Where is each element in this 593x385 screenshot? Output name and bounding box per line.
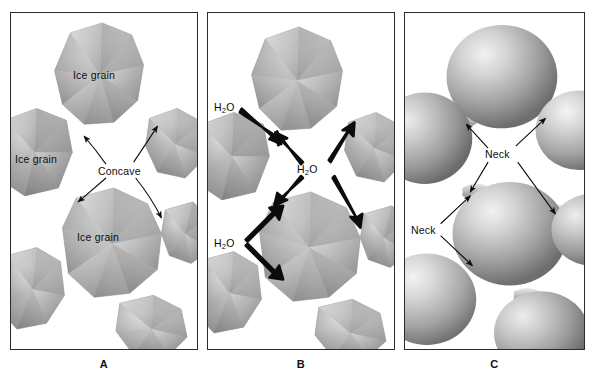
figure-ice-grain-metamorphism: Ice grain Ice grain Ice grain Concave xyxy=(0,0,593,385)
ice-grain-bottom-right xyxy=(315,299,386,349)
panel-b: H2O H2O H2O xyxy=(207,12,395,350)
h2o-arrow-center-upper-left xyxy=(275,132,303,164)
panel-c-illustration xyxy=(405,13,584,349)
rounded-grain-bottom-right xyxy=(494,291,584,349)
ice-grain-bottom-left xyxy=(11,248,64,330)
label-h2o-lower-left: H2O xyxy=(214,237,235,251)
h2o-element-h: H xyxy=(214,101,222,113)
label-ice-grain-top: Ice grain xyxy=(73,69,115,81)
ice-grain-top xyxy=(252,27,343,130)
label-concave: Concave xyxy=(98,165,141,177)
label-neck-lower: Neck xyxy=(411,224,436,236)
h2o-element-o: O xyxy=(226,237,234,249)
label-ice-grain-center: Ice grain xyxy=(77,231,119,243)
ice-grain-right-lower xyxy=(161,202,197,264)
panel-c-svg xyxy=(405,13,584,349)
panel-caption-c: C xyxy=(404,358,585,370)
ice-grain-bottom-left xyxy=(208,252,261,334)
panel-c: Neck Neck xyxy=(404,12,585,350)
label-h2o-upper-left: H2O xyxy=(214,101,235,115)
ice-grain-right-lower xyxy=(360,206,394,268)
panel-b-illustration xyxy=(208,13,394,349)
panel-caption-b: B xyxy=(207,358,395,370)
panel-a-svg xyxy=(11,13,197,349)
concave-arrow-upper-left xyxy=(84,136,106,164)
h2o-element-o: O xyxy=(226,101,234,113)
ice-grain-bottom-right xyxy=(116,295,187,349)
label-neck-upper: Neck xyxy=(485,148,510,160)
panel-caption-a: A xyxy=(10,358,198,370)
panel-a: Ice grain Ice grain Ice grain Concave xyxy=(10,12,198,350)
label-ice-grain-left: Ice grain xyxy=(15,153,57,165)
panel-b-svg xyxy=(208,13,394,349)
h2o-element-h: H xyxy=(214,237,222,249)
rounded-grain-center xyxy=(452,182,567,285)
h2o-element-h: H xyxy=(297,163,305,175)
h2o-element-o: O xyxy=(309,163,317,175)
ice-grain-right-upper xyxy=(146,108,197,178)
label-h2o-center: H2O xyxy=(297,163,318,177)
panel-a-illustration xyxy=(11,13,197,349)
rounded-grain-bottom-left xyxy=(405,254,476,345)
